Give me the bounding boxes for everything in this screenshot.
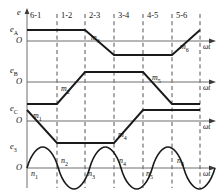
segment-label-m1: m1 xyxy=(33,112,42,122)
segment-label-n4: n4 xyxy=(119,157,126,167)
time-axis-label-B: ωt xyxy=(203,84,210,92)
segment-label-m4: m4 xyxy=(118,131,127,141)
sector-label-3-4: 3-4 xyxy=(118,11,129,20)
sector-label-5-6: 5-6 xyxy=(176,11,187,20)
segment-label-m5: m5 xyxy=(152,74,161,84)
time-axis-label-A: ωt xyxy=(203,43,210,51)
segment-label-m2: m2 xyxy=(61,85,70,95)
time-axis-label-3: ωt xyxy=(203,170,210,178)
segment-label-m3: m3 xyxy=(91,34,100,44)
segment-label-n2: n2 xyxy=(61,157,68,167)
segment-label-n3: n3 xyxy=(88,170,95,180)
origin-label-B: O xyxy=(16,77,22,86)
sector-label-6-1: 6-1 xyxy=(30,11,41,20)
sector-label-4-5: 4-5 xyxy=(147,11,158,20)
segment-label-n1: n1 xyxy=(31,170,38,180)
origin-label-3: O xyxy=(16,163,22,172)
sector-label-2-3: 2-3 xyxy=(89,11,100,20)
segment-label-n5: n5 xyxy=(146,170,153,180)
origin-label-C: O xyxy=(16,116,22,125)
segment-label-n6: n6 xyxy=(177,157,184,167)
axis-label-e3: e3 xyxy=(10,142,17,153)
segment-label-m6: m6 xyxy=(180,43,189,53)
figure-root: 6-1 1-2 2-3 3-4 4-5 5-6 e eA O eB O eC O… xyxy=(0,0,222,192)
origin-label-A: O xyxy=(16,36,22,45)
e-axis-arrowhead xyxy=(25,8,30,14)
time-axis-label-C: ωt xyxy=(203,123,210,131)
waveform-svg xyxy=(0,0,222,192)
e-axis-label: e xyxy=(17,8,21,17)
axis-label-eC: eC xyxy=(10,104,18,115)
sector-label-1-2: 1-2 xyxy=(61,11,72,20)
